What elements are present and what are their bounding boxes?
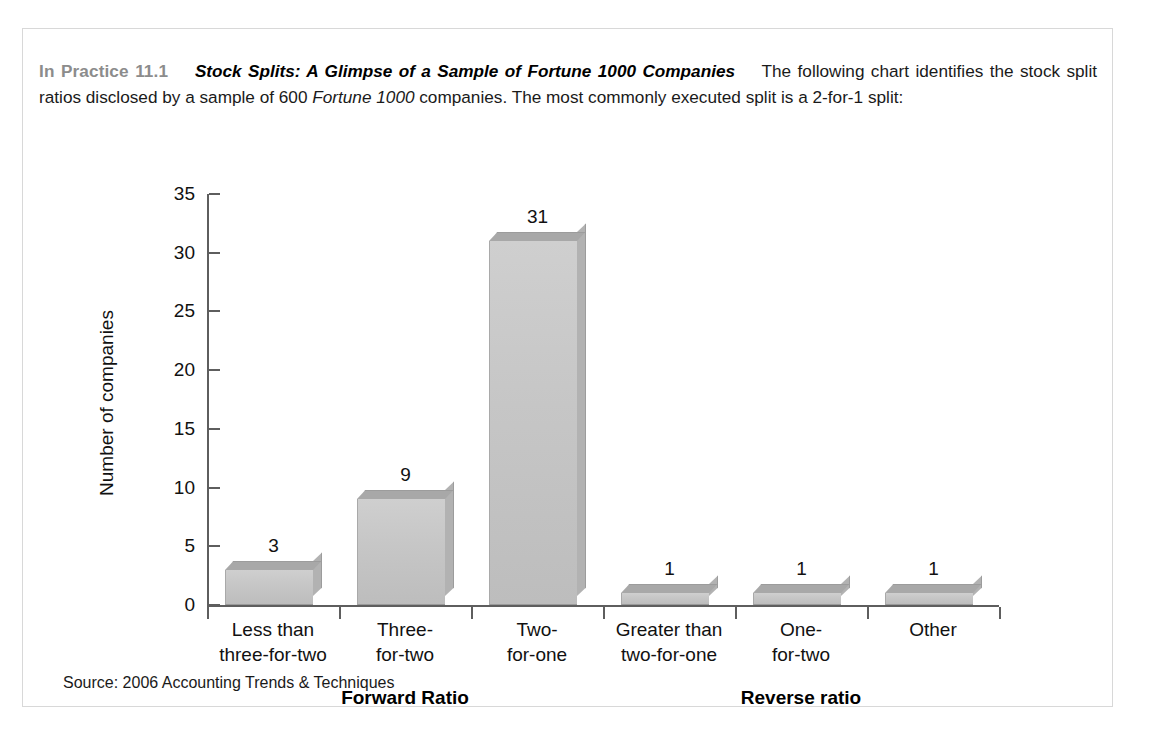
bar-top-face — [489, 232, 585, 241]
category-label-line: for-two — [735, 642, 867, 667]
bar-side-face — [313, 552, 322, 596]
x-axis-category-label: Three-for-two — [339, 617, 471, 667]
category-label-line: Less than — [207, 617, 339, 642]
x-axis-category-label: Less thanthree-for-two — [207, 617, 339, 667]
y-axis-tick-label: 0 — [135, 594, 195, 616]
bar-value-label: 31 — [478, 206, 598, 228]
bar-front-face — [621, 593, 709, 605]
in-practice-label: In Practice 11.1 — [39, 61, 168, 81]
bar-front-face — [357, 499, 445, 605]
bar: 31 — [489, 232, 577, 605]
bar-chart: Number of companies 05101520253035 39311… — [23, 139, 1114, 639]
y-axis-tick — [209, 310, 220, 312]
in-practice-box: In Practice 11.1 Stock Splits: A Glimpse… — [22, 28, 1113, 707]
y-axis-tick — [209, 604, 220, 606]
y-axis-tick — [209, 428, 220, 430]
bar: 1 — [753, 584, 841, 605]
bar: 1 — [885, 584, 973, 605]
bar-front-face — [489, 241, 577, 605]
category-label-line: for-one — [471, 642, 603, 667]
x-axis-category-label: Greater thantwo-for-one — [603, 617, 735, 667]
category-label-line: for-two — [339, 642, 471, 667]
x-axis-group-label: Reverse ratio — [603, 687, 999, 709]
category-label-line: two-for-one — [603, 642, 735, 667]
bar-top-face — [885, 584, 981, 593]
y-axis-title: Number of companies — [96, 253, 118, 553]
x-axis-tick — [999, 607, 1001, 619]
y-axis-tick-label: 35 — [135, 183, 195, 205]
bar-top-face — [621, 584, 717, 593]
bar-value-label: 1 — [874, 558, 994, 580]
y-axis-tick-label: 5 — [135, 535, 195, 557]
bar-value-label: 1 — [742, 558, 862, 580]
y-axis-tick-label: 15 — [135, 418, 195, 440]
y-axis-tick — [209, 193, 220, 195]
y-axis-tick — [209, 487, 220, 489]
intro-body-italic: Fortune 1000 — [312, 87, 414, 107]
in-practice-title: Stock Splits: A Glimpse of a Sample of F… — [195, 61, 735, 81]
source-note: Source: 2006 Accounting Trends & Techniq… — [63, 674, 394, 692]
x-axis-category-label: One-for-two — [735, 617, 867, 667]
bar: 1 — [621, 584, 709, 605]
y-axis-tick-label: 25 — [135, 300, 195, 322]
y-axis-tick-label: 10 — [135, 477, 195, 499]
x-axis-category-label: Two-for-one — [471, 617, 603, 667]
y-axis-tick — [209, 369, 220, 371]
bar-top-face — [357, 490, 453, 499]
x-axis-category-label: Other — [867, 617, 999, 642]
y-axis-tick — [209, 252, 220, 254]
bar: 3 — [225, 561, 313, 605]
bar-value-label: 1 — [610, 558, 730, 580]
bar-side-face — [445, 482, 454, 596]
bar-value-label: 3 — [214, 535, 334, 557]
bar-value-label: 9 — [346, 464, 466, 486]
category-label-line: One- — [735, 617, 867, 642]
bar-side-face — [577, 224, 586, 596]
y-axis-tick-label: 30 — [135, 242, 195, 264]
category-label-line: Greater than — [603, 617, 735, 642]
bar-front-face — [753, 593, 841, 605]
category-label-line: Other — [867, 617, 999, 642]
category-label-line: Two- — [471, 617, 603, 642]
bar-top-face — [225, 561, 321, 570]
intro-paragraph: In Practice 11.1 Stock Splits: A Glimpse… — [39, 58, 1097, 110]
plot-area: 05101520253035 3931111 — [207, 194, 999, 605]
bar: 9 — [357, 490, 445, 605]
category-label-line: three-for-two — [207, 642, 339, 667]
intro-body-part2: companies. The most commonly executed sp… — [415, 87, 904, 107]
bar-front-face — [885, 593, 973, 605]
bar-front-face — [225, 570, 313, 605]
bar-top-face — [753, 584, 849, 593]
category-label-line: Three- — [339, 617, 471, 642]
y-axis-tick-label: 20 — [135, 359, 195, 381]
